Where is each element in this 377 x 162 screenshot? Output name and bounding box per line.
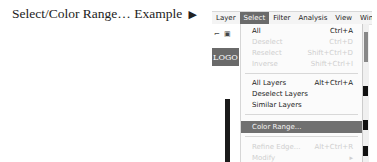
menu-filter[interactable]: Filter <box>269 12 294 24</box>
menu-item-label: All <box>252 26 261 37</box>
menu-view[interactable]: View <box>331 12 356 24</box>
menu-analysis[interactable]: Analysis <box>294 12 331 24</box>
menu-item-label: Deselect <box>252 37 283 48</box>
select-menu-dropdown: All Ctrl+A Deselect Ctrl+D Reselect Shif… <box>240 24 363 162</box>
menu-item-label: All Layers <box>252 78 286 89</box>
tool-icons[interactable]: ⌐ ▣ <box>214 30 232 38</box>
menu-item-shortcut: Alt+Ctrl+A <box>315 78 353 89</box>
menu-item-label: Deselect Layers <box>252 89 308 100</box>
menu-item-shortcut: Ctrl+A <box>330 26 353 37</box>
menu-separator <box>245 136 358 137</box>
menu-separator <box>245 114 358 115</box>
menu-item-shortcut: Shift+Ctrl+I <box>311 59 353 70</box>
menu-item-reselect[interactable]: Reselect Shift+Ctrl+D <box>241 48 362 59</box>
logo-thumbnail: LOGO <box>212 48 239 66</box>
scrollbar-marker <box>363 86 368 96</box>
menu-item-shortcut: Ctrl+D <box>329 37 353 48</box>
menu-item-similar-layers[interactable]: Similar Layers <box>241 100 362 111</box>
menu-item-all[interactable]: All Ctrl+A <box>241 26 362 37</box>
menu-item-shortcut: Shift+Ctrl+D <box>308 48 354 59</box>
caption-text: Select/Color Range… Example <box>12 6 182 21</box>
menu-select[interactable]: Select <box>240 12 270 24</box>
example-caption: Select/Color Range… Example ▶ <box>12 6 197 22</box>
menu-bar: Layer Select Filter Analysis View Windo <box>212 11 372 25</box>
menu-item-label: Color Range... <box>252 121 301 133</box>
menu-layer[interactable]: Layer <box>212 12 240 24</box>
menu-item-all-layers[interactable]: All Layers Alt+Ctrl+A <box>241 78 362 89</box>
scrollbar-marker <box>363 120 368 130</box>
menu-item-label: Inverse <box>252 59 278 70</box>
menu-item-modify[interactable]: Modify ▸ <box>241 153 362 162</box>
right-arrow-icon: ▶ <box>189 8 197 20</box>
menu-window[interactable]: Windo <box>356 12 372 24</box>
menu-item-refine-edge[interactable]: Refine Edge... Alt+Ctrl+R <box>241 142 362 153</box>
menu-item-label: Similar Layers <box>252 100 302 111</box>
menu-item-deselect[interactable]: Deselect Ctrl+D <box>241 37 362 48</box>
menu-item-deselect-layers[interactable]: Deselect Layers <box>241 89 362 100</box>
menu-item-inverse[interactable]: Inverse Shift+Ctrl+I <box>241 59 362 70</box>
scrollbar-thumb[interactable] <box>364 32 368 62</box>
layer-strip <box>225 99 230 162</box>
menu-item-label: Modify <box>252 153 275 162</box>
left-panel: ⌐ ▣ LOGO <box>212 24 240 162</box>
menu-item-label: Reselect <box>252 48 282 59</box>
panel-scrollbar[interactable] <box>362 24 369 162</box>
menu-separator <box>245 73 358 74</box>
menu-item-shortcut: Alt+Ctrl+R <box>314 142 353 153</box>
scrollbar-marker <box>363 146 368 156</box>
screenshot-excerpt: Layer Select Filter Analysis View Windo … <box>212 11 372 162</box>
submenu-arrow-icon: ▸ <box>349 153 353 162</box>
menu-item-color-range[interactable]: Color Range... <box>241 121 362 133</box>
menu-item-label: Refine Edge... <box>252 142 301 153</box>
